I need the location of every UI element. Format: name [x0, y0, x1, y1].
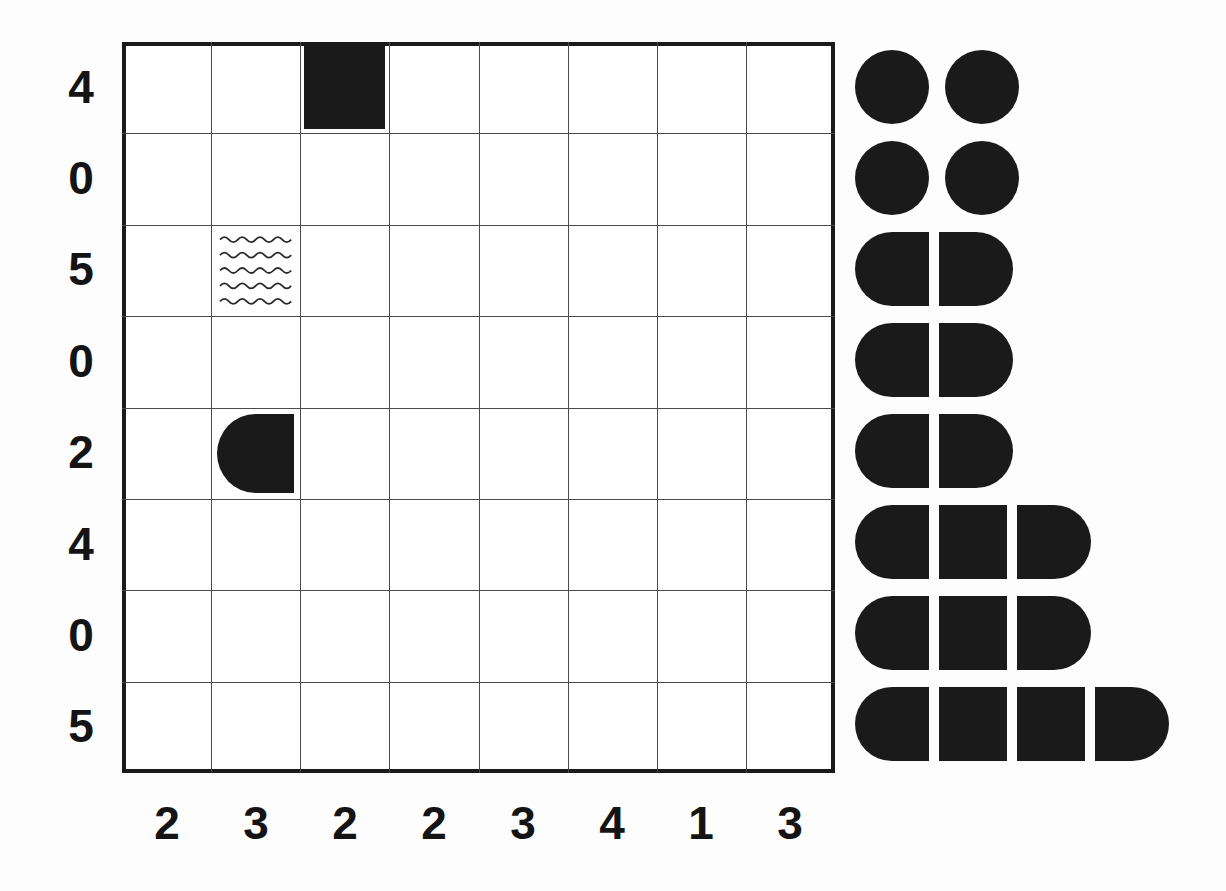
pill-segment-stack	[855, 42, 1185, 773]
left-cap-segment	[855, 687, 929, 761]
left-cap-segment	[855, 596, 929, 670]
circle-segment	[945, 50, 1019, 124]
column-label-3: 2	[310, 800, 380, 846]
column-label-6: 4	[577, 800, 647, 846]
column-label-8: 3	[755, 800, 825, 846]
right-cap-segment	[939, 232, 1013, 306]
right-cap-segment	[1017, 505, 1091, 579]
row-label-7: 0	[54, 612, 108, 658]
right-cap-segment	[939, 414, 1013, 488]
right-cap-segment	[1017, 596, 1091, 670]
circle-segment	[855, 50, 929, 124]
grid-horizontal-line	[122, 133, 835, 134]
worksheet-canvas: 40502405 23223413	[0, 0, 1226, 891]
row-label-4: 0	[54, 338, 108, 384]
left-cap-segment	[855, 323, 929, 397]
row-label-6: 4	[54, 521, 108, 567]
grid-horizontal-line	[122, 408, 835, 409]
circle-segment	[855, 141, 929, 215]
number-grid[interactable]	[122, 42, 835, 773]
grid-horizontal-line	[122, 590, 835, 591]
column-label-5: 3	[488, 800, 558, 846]
right-cap-segment	[939, 323, 1013, 397]
grid-horizontal-line	[122, 316, 835, 317]
middle-segment	[939, 596, 1007, 670]
row-label-8: 5	[54, 703, 108, 749]
middle-segment	[939, 505, 1007, 579]
row-label-3: 5	[54, 246, 108, 292]
row-label-1: 4	[54, 64, 108, 110]
column-label-1: 2	[132, 800, 202, 846]
row-label-5: 2	[54, 429, 108, 475]
left-cap-segment	[855, 505, 929, 579]
middle-segment	[939, 687, 1007, 761]
left-cap-segment	[855, 414, 929, 488]
left-cap-segment	[855, 232, 929, 306]
grid-horizontal-line	[122, 225, 835, 226]
middle-segment	[1017, 687, 1085, 761]
column-label-2: 3	[221, 800, 291, 846]
wave-pattern-cell	[218, 232, 293, 309]
right-cap-segment	[1095, 687, 1169, 761]
grid-horizontal-line	[122, 499, 835, 500]
column-label-4: 2	[399, 800, 469, 846]
column-label-7: 1	[666, 800, 736, 846]
half-round-cell	[217, 414, 294, 493]
filled-square-cell	[304, 46, 385, 129]
circle-segment	[945, 141, 1019, 215]
row-label-2: 0	[54, 155, 108, 201]
grid-horizontal-line	[122, 682, 835, 683]
